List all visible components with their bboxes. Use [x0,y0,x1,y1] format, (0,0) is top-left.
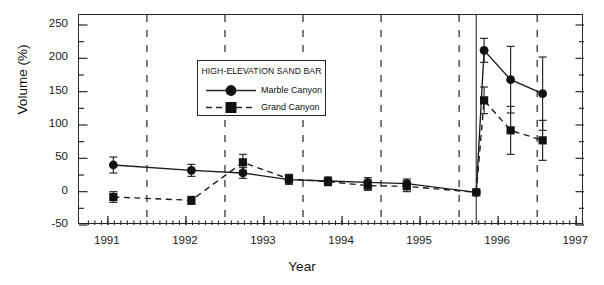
x-tick-label: 1997 [545,235,604,247]
x-tick-label: 1991 [77,235,137,247]
y-tick-label: 250 [24,18,68,30]
x-tick-label: 1996 [467,235,527,247]
y-tick-label: -50 [24,218,68,230]
x-tick-label: 1992 [155,235,215,247]
y-tick-label: 0 [24,185,68,197]
chart-figure: Volume (%) Year -50050100150200250 19911… [0,0,604,285]
y-tick-label: 100 [24,118,68,130]
axis-ticks-layer [79,15,584,225]
x-tick-label: 1994 [311,235,371,247]
x-tick-label: 1995 [389,235,449,247]
x-axis-label: Year [0,259,604,274]
plot-frame: HIGH-ELEVATION SAND BAR Marble Canyon Gr… [78,14,583,224]
x-tick-label: 1993 [233,235,293,247]
y-tick-label: 150 [24,85,68,97]
y-tick-label: 50 [24,151,68,163]
y-tick-label: 200 [24,51,68,63]
